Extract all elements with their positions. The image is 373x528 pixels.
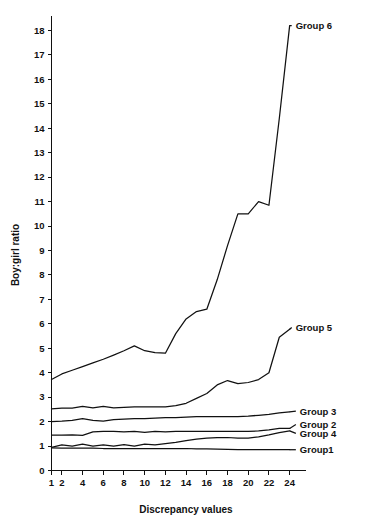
series-line-group1 [52, 448, 290, 450]
x-tick-label: 12 [160, 477, 171, 488]
y-tick-label: 1 [39, 440, 45, 451]
y-tick-label: 6 [39, 318, 44, 329]
x-tick-label: 16 [202, 477, 213, 488]
leader-line [290, 328, 292, 330]
x-tick-label: 6 [101, 477, 106, 488]
series-line-group-2 [52, 428, 290, 435]
y-tick-label: 3 [39, 391, 44, 402]
axes [52, 16, 307, 471]
chart-container: 0123456789101112131415161718 12468101214… [0, 0, 373, 528]
y-tick-label: 7 [39, 294, 44, 305]
series-labels: Group 6Group 5Group 3Group 2Group 4Group… [296, 20, 337, 455]
series-label-leaders [290, 26, 296, 450]
y-tick-label: 17 [34, 49, 45, 60]
series-label-group-4: Group 4 [300, 428, 337, 439]
y-tick-label: 15 [34, 98, 45, 109]
x-tick-label: 22 [264, 477, 275, 488]
x-tick-label: 10 [139, 477, 150, 488]
data-series [52, 26, 290, 450]
series-line-group-6 [52, 26, 290, 380]
x-tick-label: 8 [121, 477, 126, 488]
series-label-group-5: Group 5 [296, 322, 333, 333]
y-tick-label: 18 [34, 25, 45, 36]
axis-ticks [48, 31, 290, 476]
leader-line [290, 431, 296, 433]
series-label-group1: Group1 [300, 444, 334, 455]
y-tick-label: 14 [34, 123, 45, 134]
y-tick-label: 8 [39, 269, 44, 280]
y-axis-tick-labels: 0123456789101112131415161718 [34, 25, 45, 476]
leader-line [290, 411, 296, 412]
series-line-group-5 [52, 329, 290, 409]
y-tick-label: 11 [34, 196, 45, 207]
x-axis-title: Discrepancy values [139, 504, 233, 515]
axis-lines [52, 16, 307, 471]
y-tick-label: 16 [34, 74, 45, 85]
x-tick-label: 24 [284, 477, 295, 488]
x-tick-label: 1 [49, 477, 55, 488]
y-tick-label: 9 [39, 245, 44, 256]
x-tick-label: 14 [181, 477, 192, 488]
leader-line [290, 425, 296, 429]
y-tick-label: 10 [34, 220, 45, 231]
x-tick-label: 18 [222, 477, 233, 488]
x-tick-label: 20 [243, 477, 254, 488]
x-axis-tick-labels: 124681012141618202224 [49, 477, 296, 488]
x-tick-label: 4 [80, 477, 86, 488]
y-tick-label: 5 [39, 343, 45, 354]
x-tick-label: 2 [59, 477, 64, 488]
series-line-group-3 [52, 412, 290, 422]
y-tick-label: 4 [39, 367, 45, 378]
y-tick-label: 13 [34, 147, 45, 158]
y-tick-label: 2 [39, 416, 44, 427]
line-chart: 0123456789101112131415161718 12468101214… [0, 0, 373, 528]
series-label-group-3: Group 3 [300, 406, 336, 417]
y-tick-label: 0 [39, 465, 44, 476]
y-tick-label: 12 [34, 171, 45, 182]
y-axis-title: Boy:girl ratio [10, 224, 21, 286]
series-label-group-6: Group 6 [296, 20, 332, 31]
